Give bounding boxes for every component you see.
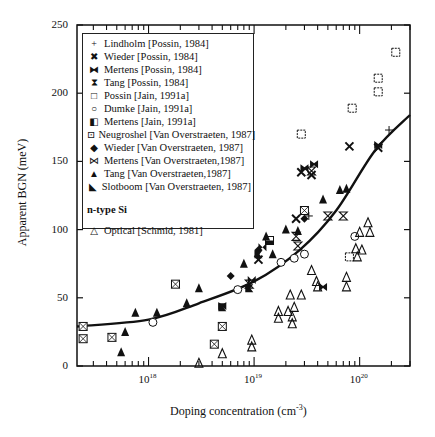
y-tick-label: 250 — [38, 18, 68, 30]
filled-bowtie-box-icon: ⧓ — [87, 63, 101, 76]
x-cross-icon: ✖ — [87, 50, 101, 63]
filled-diamond-icon: ◆ — [87, 141, 101, 154]
legend-entry: ⋈Mertens [Van Overstraeten,1987] — [87, 154, 251, 167]
legend-entry: □Possin [Jain, 1991a] — [87, 89, 251, 102]
legend-subtitle: n-type Si — [87, 203, 251, 216]
bowtie-icon: ⋈ — [87, 154, 101, 167]
series-hourglass — [245, 167, 347, 288]
legend-label: Dumke [Jain, 1991a] — [104, 102, 192, 115]
legend-label: Neugroshel [Van Overstraeten, 1987] — [98, 128, 255, 141]
legend-entry: ◧Mertens [Jain, 1991a] — [87, 115, 251, 128]
series-open-triangle — [195, 218, 374, 367]
legend-entry-optical: △ Optical [Schmid, 1981] — [87, 224, 251, 237]
legend-label: Slotboom [Van Overstraeten, 1987] — [102, 180, 251, 193]
legend-label: Wieder [Van Overstraeten, 1987] — [104, 141, 243, 154]
legend-entry: ▲Tang [Van Overstraeten,1987] — [87, 167, 251, 180]
plus-icon: + — [87, 37, 101, 50]
legend-label: Lindholm [Possin, 1984] — [104, 37, 209, 50]
legend-label: Mertens [Jain, 1991a] — [104, 115, 196, 128]
legend: +Lindholm [Possin, 1984]✖Wieder [Possin,… — [82, 33, 254, 229]
x-tick-label: 1020 — [350, 372, 368, 385]
filled-flag-icon: ◣ — [87, 180, 99, 193]
filled-triangle-icon: ▲ — [87, 167, 101, 180]
x-tick-label: 1019 — [244, 372, 262, 385]
legend-label: Wieder [Possin, 1984] — [104, 50, 198, 63]
open-triangle-icon: △ — [87, 224, 101, 237]
y-tick-label: 100 — [38, 223, 68, 235]
open-circle-icon: ○ — [87, 102, 101, 115]
legend-entry: ◆Wieder [Van Overstraeten, 1987] — [87, 141, 251, 154]
series-open-square — [297, 48, 399, 261]
y-tick-label: 50 — [38, 291, 68, 303]
y-tick-label: 200 — [38, 86, 68, 98]
legend-label: Mertens [Van Overstraeten,1987] — [104, 154, 244, 167]
x-axis-label: Doping concentration (cm-3) — [170, 403, 307, 419]
series-x-cross — [254, 142, 382, 263]
open-square-icon: □ — [87, 89, 101, 102]
boxed-square-icon: ⊡ — [87, 128, 95, 141]
legend-entry: ⊡Neugroshel [Van Overstraeten, 1987] — [87, 128, 251, 141]
legend-label: Possin [Jain, 1991a] — [104, 89, 189, 102]
half-filled-square-icon: ◧ — [87, 115, 101, 128]
legend-label: Mertens [Possin, 1984] — [104, 63, 202, 76]
legend-label: Tang [Van Overstraeten,1987] — [104, 167, 231, 180]
legend-entry: ⧓Mertens [Possin, 1984] — [87, 63, 251, 76]
series-plus — [305, 126, 393, 220]
legend-entry: ✖Wieder [Possin, 1984] — [87, 50, 251, 63]
hourglass-icon: ⧗ — [87, 76, 101, 89]
x-tick-label: 1018 — [139, 372, 157, 385]
y-tick-label: 0 — [38, 359, 68, 371]
y-axis-label: Apparent BGN (meV) — [15, 123, 30, 263]
y-tick-label: 150 — [38, 154, 68, 166]
legend-entry: ⧗Tang [Possin, 1984] — [87, 76, 251, 89]
legend-entry: ○Dumke [Jain, 1991a] — [87, 102, 251, 115]
legend-label: Tang [Possin, 1984] — [104, 76, 188, 89]
legend-entry: ◣Slotboom [Van Overstraeten, 1987] — [87, 180, 251, 193]
legend-entry: +Lindholm [Possin, 1984] — [87, 37, 251, 50]
